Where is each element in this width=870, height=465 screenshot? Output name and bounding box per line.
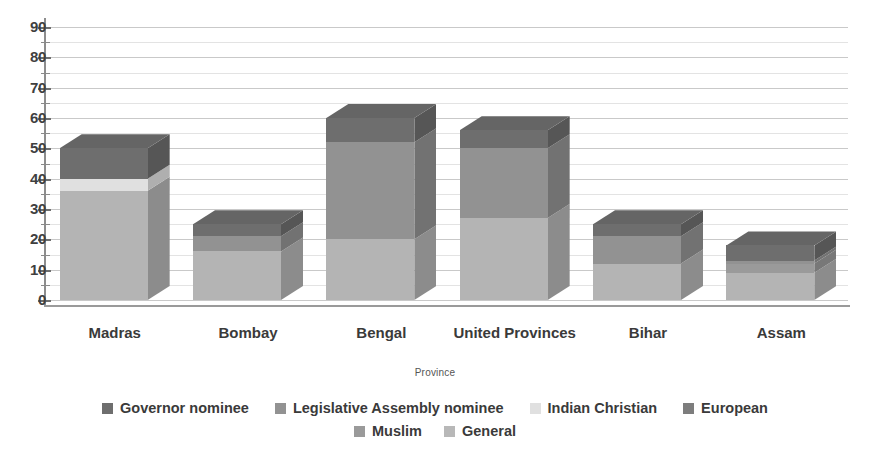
bar-madras[interactable]	[60, 0, 148, 300]
bar-segment-governor-nominee	[326, 118, 414, 142]
bar-segment-governor-nominee	[726, 245, 814, 260]
bar-segment-general	[326, 239, 414, 300]
bar-bombay[interactable]	[193, 0, 281, 300]
legend-label: General	[462, 421, 516, 441]
y-axis-tick	[41, 224, 50, 225]
bar-chart: 0102030405060708090 MadrasBombayBengalUn…	[0, 0, 870, 465]
legend-item-indian-christian[interactable]: Indian Christian	[530, 398, 658, 418]
x-axis-label-assam: Assam	[715, 324, 848, 341]
legend-row-1: Governor nomineeLegislative Assembly nom…	[0, 398, 870, 418]
y-axis-tick	[41, 194, 50, 195]
bar-segment-general	[60, 191, 148, 300]
legend-swatch-icon	[102, 403, 113, 414]
legend-swatch-icon	[354, 426, 365, 437]
bar-segment-side	[548, 204, 570, 300]
legend-item-legislative-assembly-nominee[interactable]: Legislative Assembly nominee	[275, 398, 504, 418]
bar-segment-general	[593, 264, 681, 300]
legend-item-governor-nominee[interactable]: Governor nominee	[102, 398, 249, 418]
y-axis-tick	[41, 133, 50, 134]
legend: Governor nomineeLegislative Assembly nom…	[0, 398, 870, 441]
bar-united-provinces[interactable]	[460, 0, 548, 300]
y-axis-tick-label: 90	[12, 19, 46, 34]
x-axis-title: Province	[0, 367, 870, 378]
legend-label: Governor nominee	[120, 398, 249, 418]
y-axis-tick-label: 30	[12, 201, 46, 216]
x-axis-label-bengal: Bengal	[315, 324, 448, 341]
bar-segment-governor-nominee	[60, 148, 148, 178]
bar-segment-legislative-assembly-nominee	[593, 236, 681, 263]
legend-swatch-icon	[275, 403, 286, 414]
bar-segment-muslim	[726, 264, 814, 273]
y-axis-tick	[41, 164, 50, 165]
legend-swatch-icon	[530, 403, 541, 414]
legend-row-2: MuslimGeneral	[0, 421, 870, 441]
legend-label: Muslim	[372, 421, 422, 441]
gridline-major	[48, 300, 848, 301]
bar-segment-governor-nominee	[593, 224, 681, 236]
bar-segment-legislative-assembly-nominee	[193, 236, 281, 251]
bar-assam[interactable]	[726, 0, 814, 300]
bar-segment-governor-nominee	[193, 224, 281, 236]
y-axis-tick	[41, 73, 50, 74]
legend-swatch-icon	[683, 403, 694, 414]
bar-segment-legislative-assembly-nominee	[326, 142, 414, 239]
y-axis-tick	[41, 103, 50, 104]
y-axis-tick-label: 20	[12, 231, 46, 246]
bar-segment-general	[193, 251, 281, 300]
x-axis-label-madras: Madras	[48, 324, 181, 341]
bar-bihar[interactable]	[593, 0, 681, 300]
legend-label: European	[701, 398, 768, 418]
y-axis-tick-label: 70	[12, 80, 46, 95]
bar-segment-general	[726, 273, 814, 300]
legend-item-european[interactable]: European	[683, 398, 768, 418]
legend-item-general[interactable]: General	[444, 421, 516, 441]
y-axis-tick	[41, 255, 50, 256]
bar-segment-side	[414, 128, 436, 239]
y-axis-tick-label: 10	[12, 262, 46, 277]
y-axis-tick	[41, 42, 50, 43]
bar-segment-general	[460, 218, 548, 300]
legend-label: Indian Christian	[548, 398, 658, 418]
x-axis-label-bihar: Bihar	[581, 324, 714, 341]
x-axis-label-bombay: Bombay	[181, 324, 314, 341]
y-axis-tick-label: 40	[12, 171, 46, 186]
y-axis-tick-label: 60	[12, 110, 46, 125]
y-axis-tick-label: 50	[12, 140, 46, 155]
legend-swatch-icon	[444, 426, 455, 437]
bar-segment-legislative-assembly-nominee	[460, 148, 548, 218]
x-axis-line	[44, 305, 850, 307]
legend-label: Legislative Assembly nominee	[293, 398, 504, 418]
bar-segment-side	[148, 177, 170, 300]
y-axis-tick-label: 80	[12, 49, 46, 64]
bar-segment-legislative-assembly-nominee	[726, 261, 814, 264]
y-axis-tick	[41, 285, 50, 286]
x-axis-label-united-provinces: United Provinces	[448, 324, 581, 341]
bar-bengal[interactable]	[326, 0, 414, 300]
legend-item-muslim[interactable]: Muslim	[354, 421, 422, 441]
bar-segment-indian-christian	[60, 179, 148, 191]
y-axis-tick-label: 0	[12, 292, 46, 307]
bar-segment-governor-nominee	[460, 130, 548, 148]
bar-segment-side	[548, 134, 570, 218]
